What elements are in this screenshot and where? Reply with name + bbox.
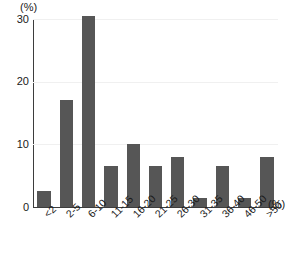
bar-11-15 [104,166,117,207]
bar-2-5 [60,100,73,207]
y-tick-label-10: 10 [3,139,29,150]
y-tick-label-0: 0 [3,202,29,213]
bar-6-10 [82,16,95,207]
bar-slot [171,19,184,207]
x-axis-tick-labels: <22-56-1011-1516-2021-2526-3031-3536-404… [33,208,278,260]
bar-slot [37,19,50,207]
y-axis-tick-labels: 30 20 10 0 [0,0,29,260]
bar-slot [149,19,162,207]
y-tick-label-20: 20 [3,76,29,87]
bar-slot [60,19,73,207]
bar-slot [127,19,140,207]
bar-slot [260,19,273,207]
bar-slot [104,19,117,207]
bar-slot [216,19,229,207]
bar-slot [238,19,251,207]
bar-slot [82,19,95,207]
x-axis-unit-label: (%) [268,198,285,210]
y-tick-label-30: 30 [3,14,29,25]
plot-area [33,19,278,207]
bar-chart: (%) 30 20 10 0 <22-56-1011-1516-2021-252… [0,0,295,260]
bar-series [33,19,278,207]
bar-slot [193,19,206,207]
